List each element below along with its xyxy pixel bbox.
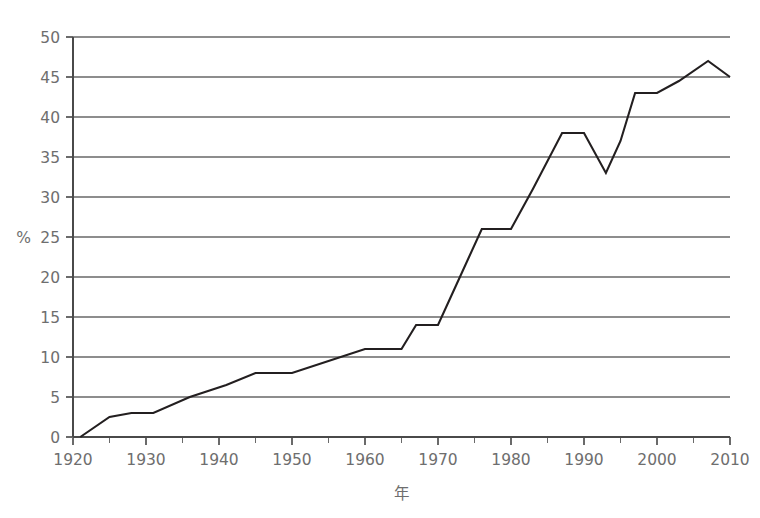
x-axis-tick-labels: 1920193019401950196019701980199020002010 <box>53 451 749 469</box>
y-tick-label: 0 <box>50 429 60 447</box>
y-tick-label: 35 <box>40 149 60 167</box>
x-tick-label: 1950 <box>272 451 311 469</box>
chart-canvas: 05101520253035404550 1920193019401950196… <box>0 0 760 518</box>
x-tick-label: 1920 <box>53 451 92 469</box>
y-tick-label: 45 <box>40 69 60 87</box>
x-tick-label: 1990 <box>564 451 603 469</box>
y-tick-label: 20 <box>40 269 60 287</box>
y-tick-label: 10 <box>40 349 60 367</box>
y-tick-label: 50 <box>40 29 60 47</box>
line-chart-figure: 05101520253035404550 1920193019401950196… <box>0 0 760 518</box>
x-tick-label: 1980 <box>491 451 530 469</box>
gridlines <box>73 37 730 437</box>
y-tick-label: 40 <box>40 109 60 127</box>
y-tick-label: 5 <box>50 389 60 407</box>
y-tick-label: 15 <box>40 309 60 327</box>
y-axis-tick-marks <box>66 37 73 437</box>
x-tick-label: 2000 <box>637 451 676 469</box>
x-tick-label: 2010 <box>710 451 749 469</box>
x-tick-label: 1970 <box>418 451 457 469</box>
x-tick-label: 1940 <box>199 451 238 469</box>
y-tick-label: 30 <box>40 189 60 207</box>
y-axis-unit-label: % <box>16 229 31 247</box>
y-tick-label: 25 <box>40 229 60 247</box>
x-axis-tick-marks <box>73 437 730 445</box>
x-tick-label: 1930 <box>126 451 165 469</box>
x-axis-title: 年 <box>394 485 410 503</box>
x-tick-label: 1960 <box>345 451 384 469</box>
y-axis-tick-labels: 05101520253035404550 <box>40 29 60 447</box>
